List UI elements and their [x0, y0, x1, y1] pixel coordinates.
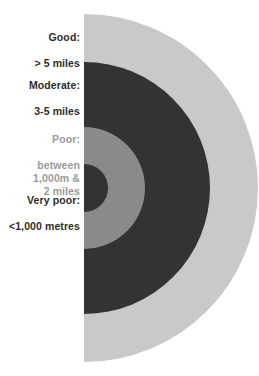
label-very-poor: Very poor: <1,000 metres [0, 181, 80, 246]
visibility-bands-infographic: Good: > 5 miles Moderate: 3-5 miles Poor… [0, 0, 259, 376]
label-poor-heading: Poor: [0, 133, 80, 146]
label-moderate-heading: Moderate: [0, 79, 80, 92]
label-very-poor-heading: Very poor: [0, 194, 80, 207]
label-very-poor-value: <1,000 metres [0, 220, 80, 233]
band-group [84, 14, 258, 362]
label-moderate-value: 3-5 miles [0, 105, 80, 118]
label-good-heading: Good: [0, 31, 80, 44]
